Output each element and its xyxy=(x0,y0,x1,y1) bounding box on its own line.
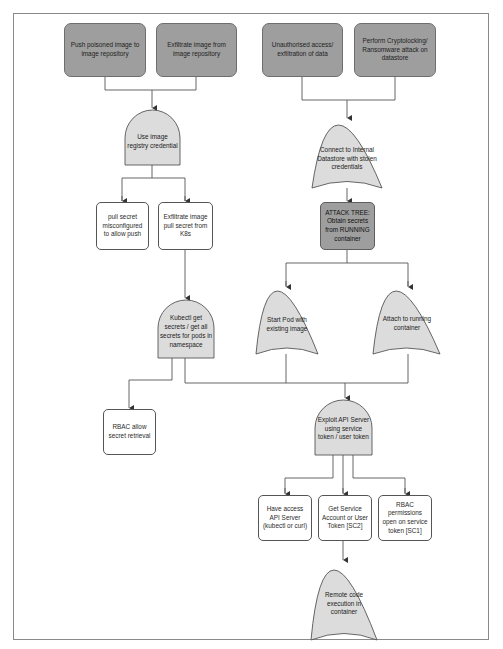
and-gate-exploit-api-server: Exploit API Server using service token /… xyxy=(317,406,370,452)
edge-and2-to-l3 xyxy=(129,358,172,408)
leaf-rbac-permissions-open: RBAC permissions open on service token [… xyxy=(378,495,432,541)
leaf-have-access-api-server: Have access API Server (kubectl or curl) xyxy=(258,495,312,541)
or-gate-connect-datastore: Connect to Internal Datastore with stole… xyxy=(314,136,380,182)
subtree-obtain-secrets: ATTACK TREE: Obtain secrets from RUNNING… xyxy=(320,202,375,250)
or-gate-attach-container: Attach to running container xyxy=(378,304,436,344)
goal-unauthorised-access: Unauthorised access/ exfiltration of dat… xyxy=(262,23,343,77)
leaf-get-service-account-token: Get Service Account or User Token [SC2] xyxy=(318,495,372,541)
goal-label: Push poisoned image to image repository xyxy=(68,41,142,58)
leaf-rbac-allow-secret-retrieval: RBAC allow secret retrieval xyxy=(103,409,156,455)
goal-label: Perform Cryptolocking/ Ransomware attack… xyxy=(358,37,432,63)
edge-s1-to-ors xyxy=(286,250,408,286)
leaf-exfiltrate-pull-secret: Exfiltrate image pull secret from K8s xyxy=(158,202,213,250)
edge-goals-to-or1 xyxy=(302,77,395,118)
edge-and1-to-leaves xyxy=(122,165,185,201)
edge-goals-to-and1 xyxy=(105,77,196,108)
goal-label: Unauthorised access/ exfiltration of dat… xyxy=(266,41,339,58)
subtree-label: ATTACK TREE: Obtain secrets from RUNNING… xyxy=(324,209,371,244)
goal-push-poisoned-image: Push poisoned image to image repository xyxy=(64,23,146,77)
goal-exfiltrate-image: Exfiltrate image from image repository xyxy=(156,23,237,77)
edge-and3-to-leaves xyxy=(285,455,405,493)
leaf-pull-secret-misconfigured: pull secret misconfigured to allow push xyxy=(96,202,149,250)
goal-cryptolocking: Perform Cryptolocking/ Ransomware attack… xyxy=(354,23,436,77)
or-gate-remote-code-execution: Remote code execution in container xyxy=(314,584,374,624)
edge-to-and3 xyxy=(185,354,408,398)
goal-label: Exfiltrate image from image repository xyxy=(160,41,233,58)
or-gate-start-pod: Start Pod with existing image xyxy=(260,308,314,342)
and-gate-kubectl-get-secrets: Kubectl get secrets / get all secrets fo… xyxy=(159,309,213,355)
and-gate-use-registry-credential: Use image registry credential xyxy=(127,122,178,162)
